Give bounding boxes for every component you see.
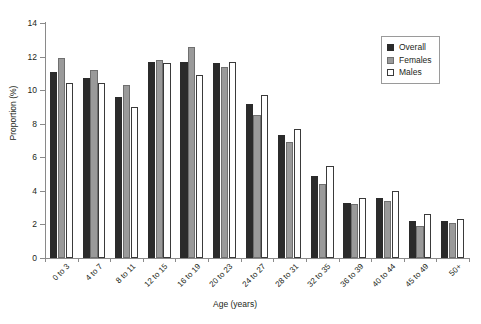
y-tick-label: 4 <box>0 187 37 196</box>
x-axis-title: Age (years) <box>150 299 320 309</box>
x-tick-mark <box>45 258 46 262</box>
x-tick-mark <box>241 258 242 262</box>
x-tick-mark <box>404 258 405 262</box>
bar-overall <box>278 135 285 258</box>
bar-males <box>392 191 399 258</box>
x-tick-mark <box>436 258 437 262</box>
x-category-label: 0 to 3 <box>51 262 72 283</box>
bar-group <box>339 23 372 258</box>
legend-swatch-icon <box>387 57 394 64</box>
x-tick-mark <box>469 258 470 262</box>
bar-females <box>384 201 391 258</box>
bar-overall <box>213 63 220 258</box>
y-tick-label: 12 <box>0 53 37 62</box>
bar-overall <box>50 72 57 258</box>
x-category-label: 16 to 19 <box>175 262 202 289</box>
bar-overall <box>148 62 155 258</box>
y-axis-title: Proportion (%) <box>8 43 18 183</box>
bar-group <box>110 23 143 258</box>
bar-males <box>66 83 73 258</box>
bar-females <box>253 115 260 258</box>
bar-group <box>436 23 469 258</box>
x-tick-mark <box>339 258 340 262</box>
bar-group <box>78 23 111 258</box>
bar-males <box>196 75 203 258</box>
bar-group <box>241 23 274 258</box>
bar-males <box>98 83 105 258</box>
bar-males <box>294 129 301 258</box>
x-tick-mark <box>110 258 111 262</box>
bar-females <box>123 85 130 258</box>
bar-overall <box>376 198 383 258</box>
bar-females <box>319 184 326 258</box>
bar-males <box>229 62 236 258</box>
bar-females <box>449 223 456 258</box>
x-category-label: 40 to 44 <box>371 262 398 289</box>
bar-females <box>156 60 163 258</box>
bar-overall <box>311 176 318 258</box>
bar-overall <box>441 221 448 258</box>
bar-males <box>261 95 268 258</box>
y-tick-label: 2 <box>0 220 37 229</box>
bar-overall <box>115 97 122 258</box>
x-category-label: 28 to 31 <box>273 262 300 289</box>
bar-males <box>457 219 464 258</box>
y-tick-label: 0 <box>0 254 37 263</box>
bar-males <box>131 107 138 258</box>
legend-swatch-icon <box>387 69 394 76</box>
legend-item-males: Males <box>387 67 432 79</box>
x-tick-mark <box>273 258 274 262</box>
y-tick-label: 10 <box>0 86 37 95</box>
legend-label: Females <box>399 56 432 65</box>
bar-overall <box>180 62 187 258</box>
x-tick-mark <box>175 258 176 262</box>
legend-label: Overall <box>399 43 426 52</box>
bar-overall <box>343 203 350 258</box>
x-category-label: 32 to 35 <box>306 262 333 289</box>
x-tick-mark <box>306 258 307 262</box>
bar-group <box>306 23 339 258</box>
bar-males <box>424 214 431 258</box>
legend-item-females: Females <box>387 54 432 66</box>
bar-group <box>208 23 241 258</box>
x-tick-mark <box>78 258 79 262</box>
chart-legend: OverallFemalesMales <box>381 36 440 84</box>
x-axis-line <box>45 258 469 259</box>
bar-females <box>221 67 228 258</box>
bar-females <box>58 58 65 258</box>
bar-group <box>175 23 208 258</box>
x-category-label: 24 to 27 <box>241 262 268 289</box>
legend-swatch-icon <box>387 44 394 51</box>
bar-males <box>163 63 170 258</box>
bar-overall <box>409 221 416 258</box>
legend-item-overall: Overall <box>387 42 432 54</box>
legend-label: Males <box>399 68 422 77</box>
bar-females <box>351 204 358 258</box>
bar-males <box>326 166 333 258</box>
x-category-label: 36 to 39 <box>338 262 365 289</box>
x-category-label: 45 to 49 <box>404 262 431 289</box>
y-tick-label: 14 <box>0 19 37 28</box>
x-category-label: 4 to 7 <box>84 262 105 283</box>
x-tick-mark <box>208 258 209 262</box>
bar-chart-figure: 02468101214 0 to 34 to 78 to 1112 to 151… <box>0 0 481 324</box>
bar-group <box>273 23 306 258</box>
bar-males <box>359 198 366 258</box>
x-tick-mark <box>143 258 144 262</box>
bar-females <box>416 226 423 258</box>
bar-group <box>45 23 78 258</box>
x-category-label: 12 to 15 <box>143 262 170 289</box>
x-category-label: 20 to 23 <box>208 262 235 289</box>
bar-females <box>188 47 195 259</box>
x-category-label: 8 to 11 <box>114 262 137 285</box>
bar-overall <box>83 78 90 258</box>
bar-females <box>286 142 293 258</box>
y-tick-label: 6 <box>0 153 37 162</box>
bar-females <box>90 70 97 258</box>
y-tick-label: 8 <box>0 120 37 129</box>
x-category-label: 50+ <box>447 262 463 278</box>
x-tick-mark <box>371 258 372 262</box>
bar-group <box>143 23 176 258</box>
bar-overall <box>246 104 253 258</box>
